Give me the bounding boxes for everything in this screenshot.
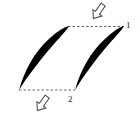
blade-left	[19, 26, 69, 90]
cascade-diagram	[0, 0, 140, 124]
station-1-label: 1	[126, 21, 131, 30]
station-2-label: 2	[68, 95, 73, 104]
inlet-flow-arrow	[89, 1, 108, 21]
outlet-flow-arrow	[33, 93, 52, 113]
blade-right	[75, 26, 124, 90]
